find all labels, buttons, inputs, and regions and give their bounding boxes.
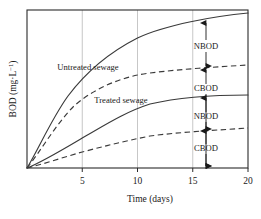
curve-label-treated: Treated sewage — [94, 95, 148, 105]
y-axis-title-main: BOD (mg·L — [8, 71, 19, 118]
y-axis-title-group: BOD (mg·L−1) — [7, 61, 19, 118]
curve-label-untreated: Untreated sewage — [57, 62, 119, 72]
y-axis-title: BOD (mg·L−1) — [7, 61, 19, 118]
cbod-lower-label: CBOD — [194, 143, 218, 153]
x-axis-ticks: 5 10 15 20 — [80, 168, 253, 186]
xtick-label-20: 20 — [243, 176, 253, 186]
chart-svg: NBOD CBOD NBOD CBOD Untreated sewage Tre… — [0, 0, 261, 219]
bod-curve-figure: NBOD CBOD NBOD CBOD Untreated sewage Tre… — [0, 0, 261, 219]
nbod-lower-label: NBOD — [194, 111, 218, 121]
xtick-label-15: 15 — [188, 176, 198, 186]
xtick-label-5: 5 — [80, 176, 85, 186]
cbod-upper-label: CBOD — [194, 83, 218, 93]
y-axis-title-sup: −1 — [7, 64, 14, 71]
nbod-upper-label: NBOD — [194, 41, 218, 51]
x-axis-title: Time (days) — [127, 194, 173, 205]
y-axis-title-tail: ) — [8, 61, 19, 64]
xtick-label-10: 10 — [133, 176, 143, 186]
